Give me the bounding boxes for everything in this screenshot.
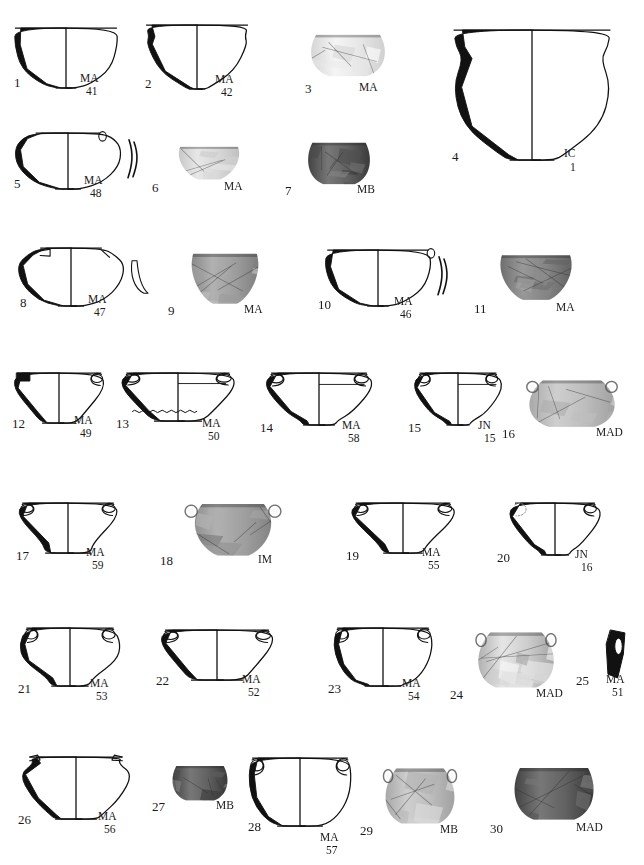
vessel-number-10: 10: [318, 298, 331, 311]
catalogue-number-22: 52: [248, 687, 260, 699]
catalogue-number-2: 42: [221, 87, 233, 99]
catalogue-number-4: 1: [570, 162, 576, 174]
vessel-number-12: 12: [12, 417, 25, 430]
site-code-29: MB: [440, 824, 458, 836]
catalogue-number-26: 56: [104, 824, 116, 836]
site-code-26: MA: [98, 811, 117, 823]
vessel-number-7: 7: [285, 184, 292, 197]
catalogue-number-5: 48: [90, 188, 102, 200]
site-code-20: JN: [575, 549, 588, 561]
catalogue-number-13: 50: [208, 431, 220, 443]
vessel-number-18: 18: [160, 554, 173, 567]
vessel-photograph-30: [508, 762, 600, 826]
site-code-21: MA: [90, 678, 109, 690]
site-code-11: MA: [556, 302, 575, 314]
site-code-25: MA: [606, 674, 625, 686]
vessel-number-21: 21: [18, 682, 31, 695]
plate-header-fragment: [0, 0, 644, 9]
vessel-number-14: 14: [260, 421, 273, 434]
vessel-number-24: 24: [450, 688, 463, 701]
catalogue-number-19: 55: [428, 560, 440, 572]
vessel-number-30: 30: [490, 822, 503, 835]
site-code-5: MA: [84, 175, 103, 187]
site-code-10: MA: [394, 296, 413, 308]
pottery-plate: 1MA412MA423MA4IC15MA486MA7MB8MA479MA10MA…: [0, 0, 644, 865]
vessel-photograph-3: [305, 30, 391, 82]
site-code-12: MA: [74, 415, 93, 427]
vessel-number-15: 15: [408, 421, 421, 434]
vessel-photograph-16: [520, 375, 624, 433]
vessel-number-5: 5: [14, 177, 21, 190]
site-code-6: MA: [224, 181, 243, 193]
vessel-number-16: 16: [502, 427, 515, 440]
site-code-23: MA: [402, 678, 421, 690]
vessel-number-27: 27: [152, 800, 165, 813]
vessel-number-13: 13: [116, 417, 129, 430]
vessel-number-19: 19: [346, 549, 359, 562]
vessel-number-17: 17: [16, 549, 29, 562]
site-code-3: MA: [359, 82, 378, 94]
vessel-number-11: 11: [474, 302, 487, 315]
vessel-number-22: 22: [156, 674, 169, 687]
vessel-number-20: 20: [497, 551, 510, 564]
catalogue-number-25: 51: [612, 687, 624, 699]
vessel-number-29: 29: [360, 824, 373, 837]
vessel-number-1: 1: [14, 76, 21, 89]
site-code-17: MA: [86, 547, 105, 559]
catalogue-number-14: 58: [348, 433, 360, 445]
site-code-16: MAD: [596, 427, 623, 439]
site-code-13: MA: [202, 418, 221, 430]
vessel-number-25: 25: [576, 674, 589, 687]
site-code-14: MA: [342, 420, 361, 432]
vessel-number-23: 23: [328, 682, 341, 695]
vessel-profile-drawing-4: [438, 16, 626, 174]
vessel-profile-drawing-20: [491, 489, 619, 569]
catalogue-number-17: 59: [92, 560, 104, 572]
catalogue-number-28: 57: [326, 845, 338, 857]
site-code-30: MAD: [576, 822, 603, 834]
site-code-28: MA: [320, 832, 339, 844]
catalogue-number-21: 53: [96, 691, 108, 703]
catalogue-number-23: 54: [408, 691, 420, 703]
site-code-18: IM: [258, 554, 272, 566]
site-code-1: MA: [80, 73, 99, 85]
vessel-number-6: 6: [152, 181, 159, 194]
vessel-number-2: 2: [145, 77, 152, 90]
site-code-19: MA: [422, 547, 441, 559]
vessel-number-3: 3: [305, 82, 312, 95]
site-code-15: JN: [478, 420, 491, 432]
catalogue-number-20: 16: [581, 562, 593, 574]
vessel-photograph-6: [170, 143, 248, 185]
site-code-7: MB: [357, 184, 375, 196]
vessel-number-26: 26: [18, 813, 31, 826]
catalogue-number-8: 47: [94, 307, 106, 319]
vessel-photograph-24: [470, 626, 562, 694]
site-code-2: MA: [215, 74, 234, 86]
catalogue-number-15: 15: [484, 433, 496, 445]
catalogue-number-10: 46: [400, 309, 412, 321]
catalogue-number-12: 49: [80, 428, 92, 440]
vessel-number-8: 8: [20, 296, 27, 309]
site-code-9: MA: [244, 304, 263, 316]
vessel-photograph-9: [182, 248, 268, 310]
site-code-4: IC: [564, 148, 576, 160]
vessel-photograph-11: [490, 250, 582, 306]
site-code-24: MAD: [536, 688, 563, 700]
catalogue-number-1: 41: [86, 86, 98, 98]
vessel-number-4: 4: [452, 150, 459, 163]
site-code-22: MA: [242, 674, 261, 686]
vessel-photograph-29: [378, 762, 462, 830]
vessel-number-9: 9: [168, 304, 175, 317]
site-code-8: MA: [88, 294, 107, 306]
vessel-number-28: 28: [248, 820, 261, 833]
site-code-27: MB: [216, 800, 234, 812]
